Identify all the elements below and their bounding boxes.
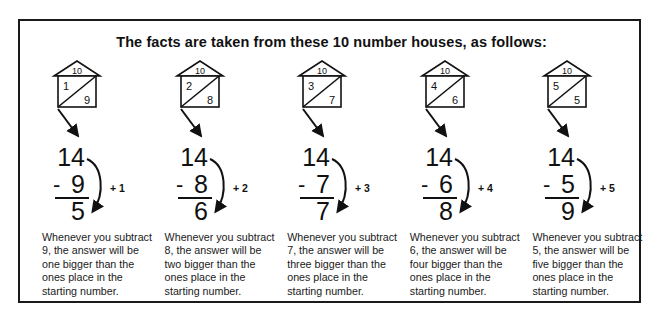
minuend: 14 xyxy=(548,144,576,171)
subtraction-problem: 14 - 6 8 + 4 xyxy=(411,144,524,222)
curved-arrow-icon xyxy=(87,159,101,211)
house-left-value: 3 xyxy=(308,80,314,92)
subtraction-problem-figure: 14 - 7 7 + 3 xyxy=(288,144,401,222)
house-left-value: 5 xyxy=(553,80,559,92)
house-roof-value: 10 xyxy=(195,66,205,76)
minus-operator: - xyxy=(298,172,305,197)
increment-annotation: + 1 xyxy=(110,182,125,194)
difference: 7 xyxy=(316,197,330,222)
house-roof-value: 10 xyxy=(440,66,450,76)
difference: 6 xyxy=(194,197,208,222)
number-house: 10 5 5 xyxy=(540,59,594,109)
minus-operator: - xyxy=(421,172,428,197)
house-to-problem-arrow xyxy=(168,105,232,147)
difference: 5 xyxy=(71,197,85,222)
increment-annotation: + 5 xyxy=(600,182,615,194)
number-house: 10 1 9 xyxy=(50,59,104,109)
subtraction-problem-figure: 14 - 6 8 + 4 xyxy=(411,144,524,222)
subtrahend: 5 xyxy=(561,170,575,198)
subtrahend: 9 xyxy=(71,170,85,198)
increment-annotation: + 4 xyxy=(478,182,493,194)
number-house: 10 4 6 xyxy=(418,59,472,109)
number-house-icon: 10 5 5 xyxy=(540,59,594,109)
subtraction-problem: 14 - 9 5 + 1 xyxy=(43,144,156,222)
curved-arrow-icon xyxy=(455,159,469,211)
house-left-value: 1 xyxy=(63,80,69,92)
number-house-column: 10 2 8 xyxy=(160,59,276,299)
number-house-icon: 10 3 7 xyxy=(295,59,349,109)
arrow-down-right-icon xyxy=(290,105,354,147)
subtrahend: 8 xyxy=(194,170,208,198)
number-house-icon: 10 1 9 xyxy=(50,59,104,109)
subtrahend: 6 xyxy=(439,170,453,198)
curved-arrow-icon xyxy=(577,159,591,211)
number-house-column: 10 1 9 xyxy=(37,59,153,299)
number-house-icon: 10 4 6 xyxy=(418,59,472,109)
difference: 8 xyxy=(439,197,453,222)
subtraction-problem: 14 - 5 9 + 5 xyxy=(533,144,646,222)
house-to-problem-arrow xyxy=(45,105,109,147)
house-roof-value: 10 xyxy=(317,66,327,76)
page-title: The facts are taken from these 10 number… xyxy=(20,34,643,50)
columns-container: 10 1 9 xyxy=(20,59,643,299)
rule-caption: Whenever you subtract 8, the answer will… xyxy=(165,231,275,298)
house-left-value: 2 xyxy=(186,80,192,92)
house-to-problem-arrow xyxy=(290,105,354,147)
increment-annotation: + 2 xyxy=(233,182,248,194)
minus-operator: - xyxy=(543,172,550,197)
arrow-down-right-icon xyxy=(413,105,477,147)
subtraction-problem: 14 - 8 6 + 2 xyxy=(166,144,279,222)
house-to-problem-arrow xyxy=(535,105,599,147)
rule-caption: Whenever you subtract 5, the answer will… xyxy=(532,231,642,298)
minuend: 14 xyxy=(180,144,208,171)
house-roof-value: 10 xyxy=(562,66,572,76)
rule-caption: Whenever you subtract 6, the answer will… xyxy=(410,231,520,298)
minuend: 14 xyxy=(425,144,453,171)
arrow-down-right-icon xyxy=(45,105,109,147)
number-house-column: 10 3 7 xyxy=(282,59,398,299)
number-house-column: 10 5 5 xyxy=(527,59,643,299)
subtraction-problem-figure: 14 - 8 6 + 2 xyxy=(166,144,279,222)
subtraction-problem-figure: 14 - 5 9 + 5 xyxy=(533,144,646,222)
arrow-down-right-icon xyxy=(168,105,232,147)
number-house-column: 10 4 6 xyxy=(405,59,521,299)
arrow-down-right-icon xyxy=(535,105,599,147)
subtrahend: 7 xyxy=(316,170,330,198)
curved-arrow-icon xyxy=(332,159,346,211)
number-house-icon: 10 2 8 xyxy=(173,59,227,109)
rule-caption: Whenever you subtract 9, the answer will… xyxy=(42,231,152,298)
house-roof-value: 10 xyxy=(72,66,82,76)
curved-arrow-icon xyxy=(210,159,224,211)
minus-operator: - xyxy=(53,172,60,197)
house-to-problem-arrow xyxy=(413,105,477,147)
minuend: 14 xyxy=(57,144,85,171)
difference: 9 xyxy=(561,197,575,222)
number-house: 10 3 7 xyxy=(295,59,349,109)
number-house: 10 2 8 xyxy=(173,59,227,109)
rule-caption: Whenever you subtract 7, the answer will… xyxy=(287,231,397,298)
subtraction-problem-figure: 14 - 9 5 + 1 xyxy=(43,144,156,222)
minuend: 14 xyxy=(302,144,330,171)
number-houses-panel: The facts are taken from these 10 number… xyxy=(18,19,641,303)
worksheet-page: The facts are taken from these 10 number… xyxy=(0,0,659,326)
house-left-value: 4 xyxy=(431,80,437,92)
subtraction-problem: 14 - 7 7 + 3 xyxy=(288,144,401,222)
increment-annotation: + 3 xyxy=(355,182,370,194)
minus-operator: - xyxy=(176,172,183,197)
